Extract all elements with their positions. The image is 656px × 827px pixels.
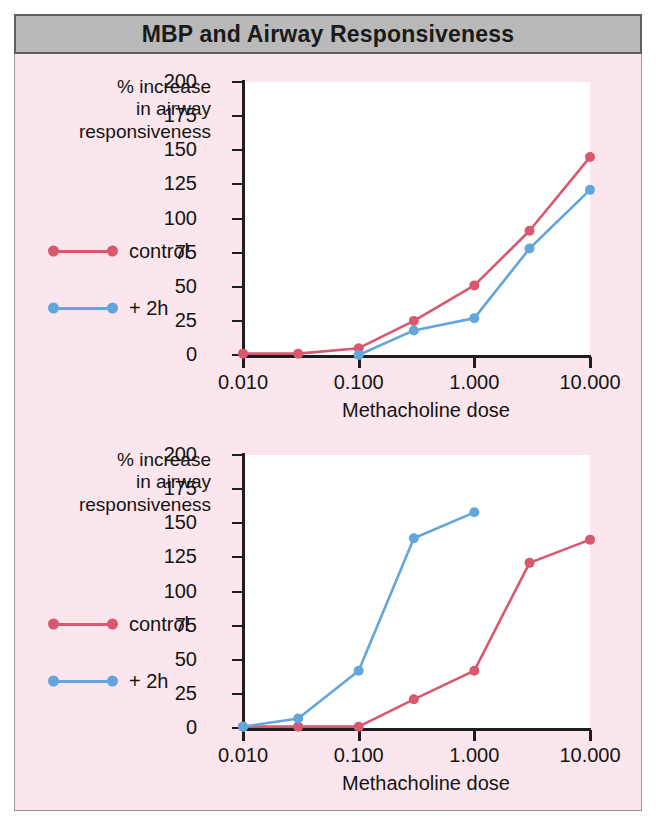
- x-axis-line-top: [242, 355, 591, 358]
- x-axis-line-bottom: [242, 728, 591, 731]
- y-axis-tick: [232, 115, 243, 117]
- legend-swatch-icon: [50, 680, 116, 683]
- y-axis-tick: [232, 659, 243, 661]
- figure-root: MBP and Airway Responsiveness % increase…: [0, 0, 656, 827]
- x-axis-tick: [473, 357, 476, 368]
- x-axis-title-bottom: Methacholine dose: [342, 772, 510, 795]
- y-axis-tick-label: 175: [127, 105, 197, 125]
- y-axis-tick: [232, 354, 243, 356]
- x-axis-tick-label: 10.000: [559, 744, 620, 767]
- x-axis-tick: [242, 730, 245, 741]
- x-axis-tick: [589, 730, 592, 741]
- y-axis-tick: [232, 149, 243, 151]
- plot-area-bottom: [243, 455, 590, 728]
- x-axis-tick: [242, 357, 245, 368]
- y-axis-tick-label: 50: [127, 649, 197, 669]
- y-axis-tick-label: 150: [127, 512, 197, 532]
- legend-swatch-icon: [50, 623, 116, 626]
- page-title: MBP and Airway Responsiveness: [142, 21, 515, 48]
- y-axis-tick: [232, 320, 243, 322]
- y-axis-tick: [232, 727, 243, 729]
- y-axis-tick-label: 100: [127, 208, 197, 228]
- y-axis-tick: [232, 183, 243, 185]
- chart-panel-top: % increasein airwayresponsiveness contro…: [14, 56, 642, 429]
- y-axis-tick: [232, 218, 243, 220]
- y-axis-tick-label: 125: [127, 546, 197, 566]
- y-axis-tick-label: 125: [127, 173, 197, 193]
- x-axis-tick-label: 0.100: [334, 744, 384, 767]
- y-axis-tick: [232, 591, 243, 593]
- y-axis-tick: [232, 454, 243, 456]
- y-axis-tick-label: 75: [127, 242, 197, 262]
- y-axis-tick: [232, 625, 243, 627]
- y-axis-tick-label: 200: [127, 444, 197, 464]
- y-axis-tick: [232, 522, 243, 524]
- plot-area-top: [243, 82, 590, 355]
- x-axis-tick-label: 0.100: [334, 371, 384, 394]
- legend-swatch-icon: [50, 307, 116, 310]
- y-axis-tick-label: 25: [127, 683, 197, 703]
- title-bar: MBP and Airway Responsiveness: [14, 14, 642, 54]
- x-axis-tick-label: 1.000: [449, 371, 499, 394]
- y-axis-tick: [232, 286, 243, 288]
- y-axis-tick-label: 25: [127, 310, 197, 330]
- y-axis-tick: [232, 693, 243, 695]
- y-axis-tick-label: 200: [127, 71, 197, 91]
- x-axis-tick: [473, 730, 476, 741]
- y-axis-tick-label: 50: [127, 276, 197, 296]
- x-axis-tick: [589, 357, 592, 368]
- x-axis-title-top: Methacholine dose: [342, 399, 510, 422]
- y-axis-tick: [232, 556, 243, 558]
- x-axis-tick-label: 0.010: [218, 371, 268, 394]
- y-axis-tick-label: 75: [127, 615, 197, 635]
- x-axis-tick: [358, 357, 361, 368]
- x-axis-tick-label: 1.000: [449, 744, 499, 767]
- y-axis-tick: [232, 81, 243, 83]
- y-axis-tick-label: 100: [127, 581, 197, 601]
- x-axis-tick-label: 10.000: [559, 371, 620, 394]
- x-axis-tick-label: 0.010: [218, 744, 268, 767]
- y-axis-tick: [232, 252, 243, 254]
- x-axis-tick: [358, 730, 361, 741]
- y-axis-tick-label: 150: [127, 139, 197, 159]
- y-axis-tick-label: 175: [127, 478, 197, 498]
- chart-panel-bottom: % increasein airwayresponsiveness contro…: [14, 429, 642, 802]
- y-axis-tick-label: 0: [127, 344, 197, 364]
- legend-swatch-icon: [50, 250, 116, 253]
- y-axis-tick: [232, 488, 243, 490]
- y-axis-tick-label: 0: [127, 717, 197, 737]
